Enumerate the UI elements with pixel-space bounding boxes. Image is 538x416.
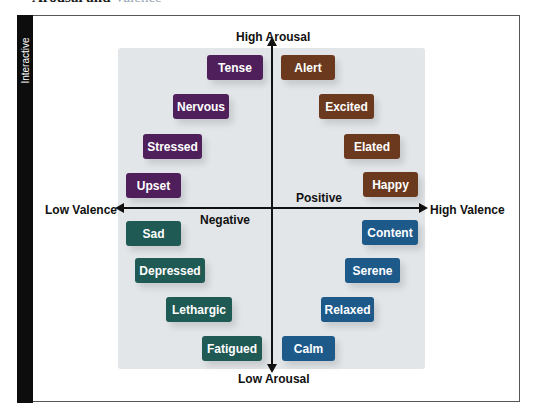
emotion-chip-fatigued[interactable]: Fatigued bbox=[202, 336, 262, 361]
arousal-axis bbox=[271, 43, 273, 366]
emotion-chip-excited[interactable]: Excited bbox=[319, 94, 374, 119]
emotion-chip-stressed[interactable]: Stressed bbox=[143, 134, 202, 159]
page-title-accent: Valence bbox=[114, 0, 161, 5]
valence-axis bbox=[121, 207, 421, 209]
emotion-chip-sad[interactable]: Sad bbox=[126, 221, 181, 246]
high-valence-label: High Valence bbox=[430, 203, 505, 217]
low-arousal-label: Low Arousal bbox=[238, 372, 310, 386]
interactive-label: Interactive bbox=[20, 37, 31, 83]
negative-label: Negative bbox=[200, 213, 250, 227]
emotion-chip-serene[interactable]: Serene bbox=[345, 258, 400, 283]
high-arousal-label: High Arousal bbox=[236, 30, 310, 44]
emotion-chip-alert[interactable]: Alert bbox=[281, 55, 335, 80]
low-valence-label: Low Valence bbox=[45, 203, 117, 217]
positive-label: Positive bbox=[296, 191, 342, 205]
interactive-sidebar: Interactive bbox=[17, 15, 33, 403]
arrow-right-icon bbox=[419, 203, 428, 213]
emotion-chip-tense[interactable]: Tense bbox=[207, 55, 263, 80]
page-title: Arousal and Valence bbox=[32, 0, 162, 6]
emotion-chip-depressed[interactable]: Depressed bbox=[135, 258, 205, 283]
page-title-main: Arousal and bbox=[32, 0, 111, 5]
emotion-chip-relaxed[interactable]: Relaxed bbox=[321, 297, 374, 322]
emotion-chip-calm[interactable]: Calm bbox=[282, 336, 335, 361]
emotion-chip-elated[interactable]: Elated bbox=[344, 134, 400, 159]
emotion-chip-content[interactable]: Content bbox=[362, 220, 418, 245]
emotion-chip-upset[interactable]: Upset bbox=[126, 173, 181, 198]
emotion-chip-nervous[interactable]: Nervous bbox=[173, 94, 229, 119]
emotion-chip-happy[interactable]: Happy bbox=[363, 172, 418, 197]
emotion-chip-lethargic[interactable]: Lethargic bbox=[166, 297, 232, 322]
